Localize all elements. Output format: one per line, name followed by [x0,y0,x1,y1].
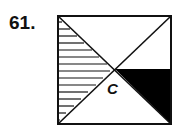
figure-square: C [0,0,182,128]
hatch-region [58,22,110,120]
center-label: C [107,80,119,97]
